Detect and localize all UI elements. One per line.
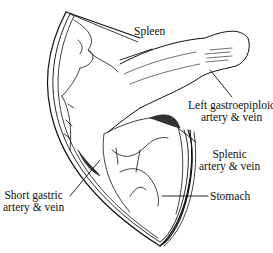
label-left-gastroepiploic: Left gastroepiploic artery & vein xyxy=(188,99,273,123)
shadow-region-left xyxy=(78,150,100,176)
label-spleen: Spleen xyxy=(134,25,165,37)
label-stomach: Stomach xyxy=(210,190,250,202)
label-short-gastric: Short gastric artery & vein xyxy=(3,189,64,213)
stomach xyxy=(103,118,183,214)
label-splenic: Splenic artery & vein xyxy=(199,148,260,172)
incision-outline xyxy=(48,12,196,246)
shadow-region xyxy=(150,115,180,128)
anatomical-illustration xyxy=(0,0,273,253)
